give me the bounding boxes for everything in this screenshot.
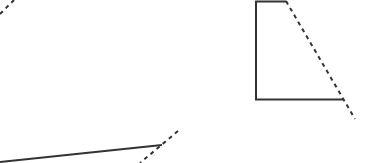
right-shape-dashed-line <box>286 1 355 119</box>
top-left-dashed-line <box>0 0 14 14</box>
diagram-canvas <box>0 0 366 163</box>
right-shape-solid-outline <box>256 2 343 100</box>
bottom-solid-line <box>0 145 162 162</box>
